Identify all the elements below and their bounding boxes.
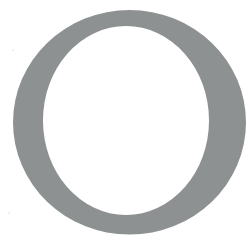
scan-speck [12, 49, 14, 51]
letter-o-path [13, 10, 246, 235]
letter-o-glyph [0, 0, 250, 244]
letter-o-image: O [0, 0, 250, 244]
scan-speck [8, 212, 10, 214]
